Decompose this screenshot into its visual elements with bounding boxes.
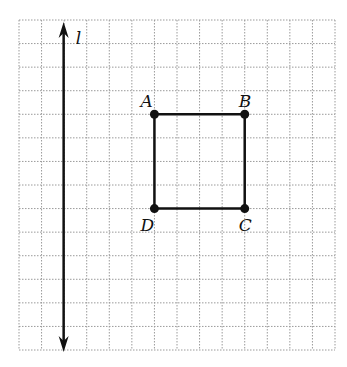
vertex-d	[150, 204, 159, 213]
grid	[19, 20, 335, 350]
square-abcd: ABCD	[138, 91, 251, 234]
vertex-label-a: A	[138, 91, 152, 111]
vertex-label-c: C	[239, 215, 252, 235]
vertex-c	[240, 204, 249, 213]
vertex-label-b: B	[238, 91, 252, 111]
vertex-label-d: D	[139, 215, 154, 235]
diagram-canvas: l ABCD	[0, 0, 347, 367]
line-label: l	[76, 28, 81, 48]
